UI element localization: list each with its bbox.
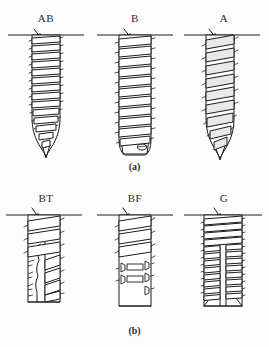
screw-bt-drawing xyxy=(2,180,90,347)
screw-a: A xyxy=(180,0,268,180)
panel-b: BT xyxy=(0,180,269,347)
screw-ab-drawing xyxy=(2,0,90,180)
screw-bf-threads xyxy=(115,216,155,258)
screw-ab: AB xyxy=(2,0,90,180)
screw-bt: BT xyxy=(2,180,90,347)
panel-a: AB xyxy=(0,0,269,180)
panel-a-caption: (a) xyxy=(0,161,269,172)
screw-b-threads xyxy=(115,36,155,146)
screw-bf-drawing xyxy=(91,180,179,347)
figure-screw-thread-types: AB xyxy=(0,0,269,347)
screw-a-drawing xyxy=(180,0,268,180)
screw-g: G xyxy=(180,180,268,347)
screw-b-drawing xyxy=(91,0,179,180)
screw-bf: BF xyxy=(91,180,179,347)
panel-b-caption: (b) xyxy=(0,325,269,336)
screw-b: B xyxy=(91,0,179,180)
screw-g-drawing xyxy=(180,180,268,347)
